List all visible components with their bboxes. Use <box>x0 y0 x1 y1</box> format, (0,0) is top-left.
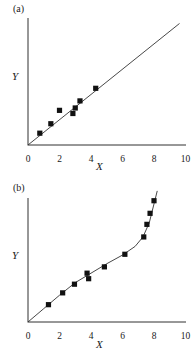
panel-b: (b) Y X 0246810 <box>0 178 193 358</box>
panel-b-xtick-6: 6 <box>120 331 125 341</box>
panel-a-xtick-10: 10 <box>181 154 191 164</box>
figure-panels: (a) Y X 0246810 (b) Y X 0246810 <box>0 0 193 358</box>
panel-b-x-axis-label: X <box>96 338 103 350</box>
panel-b-xtick-10: 10 <box>181 331 191 341</box>
panel-a-xtick-6: 6 <box>120 154 125 164</box>
panel-b-xtick-8: 8 <box>152 331 157 341</box>
panel-a-plot <box>0 0 193 178</box>
panel-a-xtick-0: 0 <box>26 154 31 164</box>
panel-b-y-axis-label: Y <box>12 249 18 261</box>
panel-b-xtick-0: 0 <box>26 331 31 341</box>
panel-a-xtick-2: 2 <box>57 154 62 164</box>
panel-b-xtick-2: 2 <box>57 331 62 341</box>
panel-a-y-axis-label: Y <box>12 70 18 82</box>
panel-a-xtick-8: 8 <box>152 154 157 164</box>
panel-a-xtick-4: 4 <box>89 154 94 164</box>
panel-a: (a) Y X 0246810 <box>0 0 193 178</box>
panel-a-x-axis-label: X <box>96 160 103 172</box>
panel-b-xtick-4: 4 <box>89 331 94 341</box>
